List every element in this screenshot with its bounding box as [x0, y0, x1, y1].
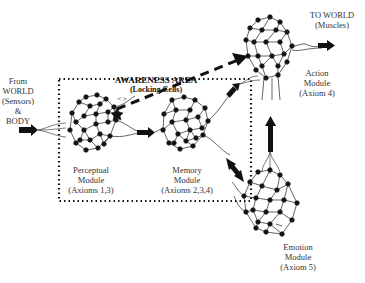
output-label-line: (Muscles) [307, 20, 357, 30]
module-label-line: Memory [159, 165, 215, 175]
memory-module-network [155, 92, 232, 155]
perceptual-module-label: Perceptual Module (Axioms 1,3) [66, 165, 116, 195]
action-module-label: Action Module (Axiom 4) [292, 68, 342, 98]
module-label-line: Module [292, 78, 342, 88]
module-label-line: Module [159, 175, 215, 185]
architecture-diagram [0, 0, 365, 283]
module-label-line: (Axiom 4) [292, 88, 342, 98]
awareness-area-label: AWARENESS AREA (Locking Cells) [112, 75, 200, 95]
output-label: TO WORLD (Muscles) [307, 10, 357, 30]
output-arrow [318, 40, 335, 51]
module-label-line: Emotion [273, 242, 323, 252]
perceptual-module-network [68, 93, 140, 153]
input-label-line: (Sensors) [2, 96, 34, 106]
module-label-line: (Axioms 2,3,4) [159, 185, 215, 195]
input-label-line: From [2, 76, 34, 86]
module-label-line: (Axiom 5) [273, 262, 323, 272]
input-label-line: BODY [2, 116, 34, 126]
awareness-area-title: AWARENESS AREA [112, 75, 200, 85]
emotion-module-label: Emotion Module (Axiom 5) [273, 242, 323, 272]
input-label-line: & [2, 106, 34, 116]
emotion-to-action-arrow [262, 116, 280, 174]
memory-module-label: Memory Module (Axioms 2,3,4) [159, 165, 215, 195]
module-label-line: Module [66, 175, 116, 185]
module-label-line: Perceptual [66, 165, 116, 175]
perceptual-to-memory-arrow [137, 127, 155, 138]
module-label-line: Module [273, 252, 323, 262]
input-label: From WORLD (Sensors) & BODY [2, 76, 34, 126]
input-label-line: WORLD [2, 86, 34, 96]
locking-marker: < > [115, 94, 129, 104]
locking-star-icon [111, 108, 123, 120]
output-label-line: TO WORLD [307, 10, 357, 20]
memory-emotion-arrow [226, 158, 244, 182]
module-label-line: (Axioms 1,3) [66, 185, 116, 195]
module-label-line: Action [292, 68, 342, 78]
